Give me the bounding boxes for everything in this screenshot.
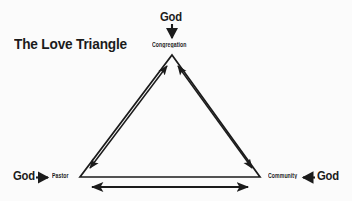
pastor-congregation-arrow (90, 66, 167, 168)
god-label-top: God (160, 11, 182, 24)
node-label-community: Community (268, 173, 297, 180)
god-label-right: God (317, 170, 339, 183)
node-label-pastor: Pastor (52, 173, 69, 180)
god-label-left: God (13, 170, 35, 183)
congregation-community-arrow (178, 66, 252, 168)
triangle-outline (80, 55, 260, 177)
page-title: The Love Triangle (14, 36, 127, 52)
node-label-congregation: Congregation (152, 42, 187, 49)
diagram-canvas: The Love Triangle God God God Congregati… (0, 0, 352, 201)
